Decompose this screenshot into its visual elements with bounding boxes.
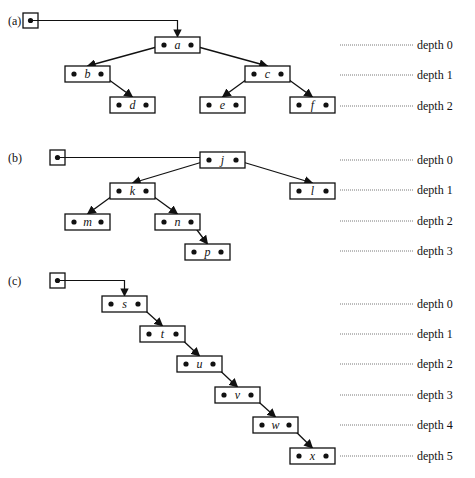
panel-c: (c)stuvwxdepth 0depth 1depth 2depth 3dep…	[8, 273, 453, 464]
left-pointer-dot	[146, 331, 151, 336]
depth-label: depth 1	[417, 68, 453, 82]
depth-label: depth 3	[417, 244, 453, 258]
right-pointer-dot	[323, 453, 328, 458]
tree-node-n: n	[155, 214, 200, 230]
left-pointer-dot	[251, 71, 256, 76]
panel-label: (a)	[8, 14, 21, 28]
left-pointer-dot	[108, 301, 113, 306]
node-key: d	[130, 98, 137, 112]
edge-j-k	[133, 160, 210, 183]
node-key: s	[122, 297, 127, 311]
right-pointer-dot	[248, 392, 253, 397]
node-key: c	[265, 67, 271, 81]
depth-label: depth 1	[417, 327, 453, 341]
depth-label: depth 0	[417, 297, 453, 311]
left-pointer-dot	[116, 188, 121, 193]
left-pointer-dot	[183, 361, 188, 366]
right-pointer-dot	[323, 188, 328, 193]
panel-label: (b)	[8, 151, 22, 165]
tree-node-w: w	[253, 417, 298, 433]
right-pointer-dot	[323, 102, 328, 107]
right-pointer-dot	[98, 219, 103, 224]
panel-a: (a)abcdefdepth 0depth 1depth 2	[8, 13, 453, 113]
root-pointer-arrow	[58, 152, 223, 158]
left-pointer-dot	[259, 422, 264, 427]
depth-guide: depth 4	[340, 418, 453, 432]
tree-node-s: s	[102, 296, 147, 312]
tree-node-x: x	[290, 448, 335, 464]
depth-label: depth 2	[417, 357, 453, 371]
node-key: x	[309, 449, 316, 463]
tree-node-k: k	[110, 183, 155, 199]
root-pointer-arrow	[58, 281, 125, 297]
depth-guide: depth 3	[340, 388, 453, 402]
right-pointer-dot	[278, 71, 283, 76]
right-pointer-dot	[143, 102, 148, 107]
tree-node-f: f	[290, 97, 335, 113]
root-pointer-arrow	[31, 21, 178, 38]
depth-label: depth 0	[417, 153, 453, 167]
edge-j-l	[236, 160, 313, 183]
node-key: m	[83, 215, 92, 229]
node-key: u	[197, 357, 203, 371]
node-key: v	[235, 388, 241, 402]
depth-label: depth 2	[417, 99, 453, 113]
left-pointer-dot	[206, 157, 211, 162]
right-pointer-dot	[188, 42, 193, 47]
depth-guide: depth 1	[340, 68, 453, 82]
depth-guide: depth 1	[340, 183, 453, 197]
right-pointer-dot	[218, 249, 223, 254]
right-pointer-dot	[143, 188, 148, 193]
node-key: b	[85, 67, 91, 81]
panel-b: (b)jklmnpdepth 0depth 1depth 2depth 3	[8, 150, 453, 260]
right-pointer-dot	[135, 301, 140, 306]
tree-node-u: u	[177, 356, 222, 372]
left-pointer-dot	[71, 219, 76, 224]
right-pointer-dot	[210, 361, 215, 366]
depth-label: depth 4	[417, 418, 453, 432]
left-pointer-dot	[161, 42, 166, 47]
right-pointer-dot	[286, 422, 291, 427]
tree-node-t: t	[140, 326, 185, 342]
depth-label: depth 1	[417, 183, 453, 197]
node-key: n	[175, 215, 181, 229]
depth-label: depth 2	[417, 214, 453, 228]
tree-node-e: e	[200, 97, 245, 113]
tree-node-m: m	[65, 214, 110, 230]
left-pointer-dot	[116, 102, 121, 107]
depth-guide: depth 3	[340, 244, 453, 258]
left-pointer-dot	[191, 249, 196, 254]
left-pointer-dot	[161, 219, 166, 224]
depth-label: depth 0	[417, 38, 453, 52]
left-pointer-dot	[296, 102, 301, 107]
tree-node-a: a	[155, 37, 200, 53]
left-pointer-dot	[71, 71, 76, 76]
left-pointer-dot	[221, 392, 226, 397]
tree-node-l: l	[290, 183, 335, 199]
left-pointer-dot	[296, 453, 301, 458]
right-pointer-dot	[173, 331, 178, 336]
edge-a-c	[191, 45, 268, 66]
depth-guide: depth 5	[340, 449, 453, 463]
right-pointer-dot	[233, 157, 238, 162]
right-pointer-dot	[188, 219, 193, 224]
tree-node-p: p	[185, 244, 230, 260]
depth-guide: depth 0	[340, 153, 453, 167]
depth-guide: depth 0	[340, 297, 453, 311]
depth-label: depth 5	[417, 449, 453, 463]
panel-label: (c)	[8, 274, 21, 288]
right-pointer-dot	[98, 71, 103, 76]
tree-node-c: c	[245, 66, 290, 82]
binary-tree-diagram: (a)abcdefdepth 0depth 1depth 2(b)jklmnpd…	[0, 0, 475, 478]
edge-a-b	[88, 45, 165, 66]
depth-guide: depth 2	[340, 99, 453, 113]
tree-node-b: b	[65, 66, 110, 82]
node-key: p	[204, 245, 211, 259]
right-pointer-dot	[233, 102, 238, 107]
depth-label: depth 3	[417, 388, 453, 402]
depth-guide: depth 2	[340, 214, 453, 228]
node-key: k	[130, 184, 136, 198]
node-key: w	[271, 418, 279, 432]
tree-node-j: j	[200, 152, 245, 168]
left-pointer-dot	[296, 188, 301, 193]
